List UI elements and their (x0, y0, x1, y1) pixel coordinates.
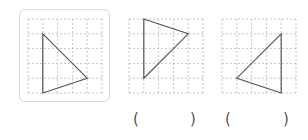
grid-reference (28, 19, 102, 93)
grids-canvas (0, 0, 308, 140)
grid-option-a (129, 19, 203, 93)
answer-a-close-paren: ) (190, 112, 196, 127)
answer-b-close-paren: ) (283, 112, 289, 127)
grid-option-b (222, 19, 296, 93)
answer-b-open-paren: ( (225, 112, 231, 127)
answer-a-open-paren: ( (133, 112, 139, 127)
